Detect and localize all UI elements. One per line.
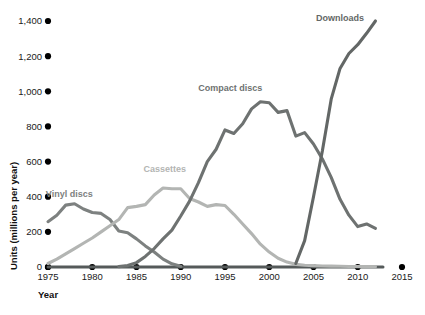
series-line-downloads (296, 21, 376, 263)
y-tick-dot (45, 123, 51, 129)
x-tick-label: 1975 (37, 271, 58, 282)
y-axis-ticks: 02004006008001,0001,2001,400 (18, 15, 51, 272)
y-axis-title: Units (millions per year) (8, 162, 19, 270)
series-line-vinyl-discs (48, 204, 181, 267)
series-lines (48, 21, 375, 267)
chart-container: 02004006008001,0001,2001,400 19751980198… (0, 0, 425, 315)
y-tick-label: 200 (26, 226, 42, 237)
x-tick-label: 2005 (303, 271, 324, 282)
x-tick-label: 1985 (126, 271, 147, 282)
x-axis-title: Year (38, 289, 58, 300)
y-tick-label: 1,200 (18, 51, 42, 62)
x-tick-label: 2015 (391, 271, 412, 282)
series-label-vinyl-discs: Vinyl discs (46, 189, 93, 199)
x-tick-dot (399, 264, 405, 270)
series-label-compact-discs: Compact discs (198, 83, 262, 93)
y-tick-label: 400 (26, 191, 42, 202)
y-tick-dot (45, 18, 51, 24)
x-tick-label: 1980 (82, 271, 103, 282)
y-tick-dot (45, 229, 51, 235)
y-tick-label: 1,400 (18, 15, 42, 26)
y-tick-dot (45, 53, 51, 59)
x-tick-label: 1995 (214, 271, 235, 282)
series-label-cassettes: Cassettes (144, 164, 187, 174)
y-tick-label: 1,000 (18, 86, 42, 97)
line-chart-svg: 02004006008001,0001,2001,400 19751980198… (0, 0, 425, 315)
x-tick-label: 1990 (170, 271, 191, 282)
y-tick-dot (45, 158, 51, 164)
series-line-cassettes (48, 188, 375, 267)
series-label-downloads: Downloads (316, 13, 364, 23)
x-tick-label: 2000 (259, 271, 280, 282)
x-tick-label: 2010 (347, 271, 368, 282)
series-line-compact-discs (119, 102, 376, 267)
y-tick-dot (45, 88, 51, 94)
y-tick-label: 600 (26, 156, 42, 167)
y-tick-label: 800 (26, 121, 42, 132)
